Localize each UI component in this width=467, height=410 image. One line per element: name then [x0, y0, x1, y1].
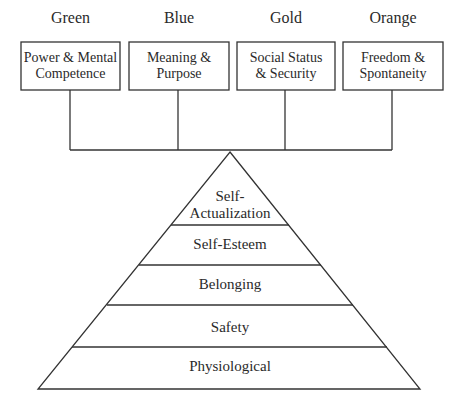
need-orange-line1: Freedom &	[360, 50, 427, 66]
level-physiological: Physiological	[130, 358, 330, 375]
level-self-actualization-line1: Self-	[130, 188, 330, 205]
header-blue: Blue	[129, 9, 229, 27]
header-orange: Orange	[343, 9, 443, 27]
level-self-esteem: Self-Esteem	[130, 236, 330, 253]
level-safety: Safety	[130, 319, 330, 336]
need-gold-line1: Social Status	[250, 50, 323, 66]
header-gold: Gold	[237, 9, 335, 27]
level-self-actualization-line2: Actualization	[130, 205, 330, 222]
need-gold: Social Status& Security	[237, 44, 335, 88]
need-blue: Meaning &Purpose	[129, 44, 229, 88]
need-green-line1: Power & Mental	[24, 50, 117, 66]
need-orange-line2: Spontaneity	[360, 66, 427, 82]
need-blue-line1: Meaning &	[147, 50, 211, 66]
header-green: Green	[21, 9, 120, 27]
need-orange: Freedom &Spontaneity	[343, 44, 443, 88]
need-blue-line2: Purpose	[147, 66, 211, 82]
need-green-line2: Competence	[24, 66, 117, 82]
need-gold-line2: & Security	[250, 66, 323, 82]
need-green: Power & MentalCompetence	[21, 44, 120, 88]
level-self-actualization: Self- Actualization	[130, 188, 330, 222]
level-belonging: Belonging	[130, 276, 330, 293]
